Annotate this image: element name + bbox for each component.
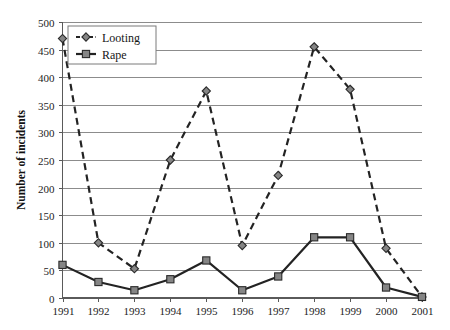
x-axis-tick-label: 1992 [88, 305, 110, 317]
x-axis-tick-label: 1994 [160, 305, 183, 317]
data-point-marker-square [167, 276, 174, 283]
x-axis-tick-label: 1997 [268, 305, 291, 317]
y-axis-tick-label: 200 [38, 183, 55, 195]
x-axis-tick-label: 1991 [53, 305, 75, 317]
y-axis-tick-label: 500 [38, 17, 55, 29]
y-axis-tick-label: 450 [38, 45, 55, 57]
y-axis-tick-label: 100 [38, 238, 55, 250]
y-axis-tick-label: 0 [49, 293, 55, 305]
y-axis-tick-label: 50 [44, 265, 56, 277]
data-point-marker-square [203, 257, 210, 264]
data-point-marker-square [311, 234, 318, 241]
data-point-marker-square [82, 50, 89, 57]
y-axis-tick-label: 250 [38, 155, 55, 167]
chart-canvas: 050100150200250300350400450500 199119921… [0, 0, 450, 330]
legend-label-looting: Looting [102, 31, 140, 45]
x-axis-tick-label: 1996 [232, 305, 255, 317]
legend-label-rape: Rape [102, 48, 127, 62]
data-point-marker-square [382, 284, 389, 291]
y-axis-tick-label: 350 [38, 100, 55, 112]
y-axis-tick-label: 150 [38, 210, 55, 222]
data-point-marker-square [95, 278, 102, 285]
data-point-marker-square [347, 234, 354, 241]
x-axis-tick-label: 1999 [340, 305, 363, 317]
y-axis-title: Number of incidents [15, 109, 27, 210]
data-point-marker-square [275, 273, 282, 280]
y-axis-tick-label: 400 [38, 72, 55, 84]
data-point-marker-square [131, 287, 138, 294]
x-axis-tick-label: 2001 [412, 305, 434, 317]
data-point-marker-square [59, 261, 66, 268]
x-axis-tick-label: 1993 [124, 305, 147, 317]
line-chart: 050100150200250300350400450500 199119921… [0, 0, 450, 330]
data-point-marker-square [239, 287, 246, 294]
x-axis-tick-label: 2000 [376, 305, 399, 317]
chart-legend: LootingRape [68, 26, 156, 64]
y-axis-tick-label: 300 [38, 127, 55, 139]
x-axis-tick-label: 1998 [304, 305, 327, 317]
data-point-marker-square [418, 293, 425, 300]
x-axis-tick-label: 1995 [196, 305, 219, 317]
